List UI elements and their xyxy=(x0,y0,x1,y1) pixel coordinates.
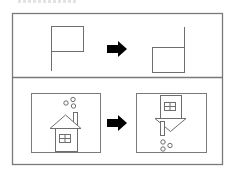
transformation-diagram xyxy=(0,0,233,175)
flag-upright-icon xyxy=(52,26,84,71)
house-rotated-icon xyxy=(155,96,186,152)
right-arrow-icon xyxy=(107,115,127,131)
outer-frame xyxy=(13,14,223,165)
flag-rotated-icon xyxy=(153,27,185,73)
right-arrow-icon xyxy=(107,41,127,57)
house-upright-icon xyxy=(50,97,81,151)
